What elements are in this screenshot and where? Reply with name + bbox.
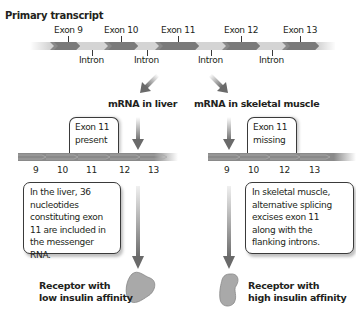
liver-long-arrow-icon (132, 186, 144, 270)
exon-label: Exon 10 (104, 25, 138, 35)
exon-tick (178, 36, 179, 42)
high-affinity-receptor-label: Receptor with high insulin affinity (248, 280, 346, 304)
liver-exon-number: 13 (148, 165, 159, 175)
exon-tick (121, 36, 122, 42)
muscle-exon-number: 9 (224, 165, 229, 175)
callout-line: flanking introns. (252, 236, 347, 249)
intron-label: Intron (79, 55, 104, 65)
callout-line: along with the (252, 224, 347, 237)
intron-label: Intron (198, 55, 223, 65)
arrow-to-muscle-icon (206, 73, 230, 97)
low-affinity-receptor-label: Receptor with low insulin affinity (39, 280, 133, 304)
liver-exon-number: 11 (86, 165, 97, 175)
exon11-missing-callout: Exon 11 missing (247, 117, 297, 153)
callout-line: Exon 11 (75, 121, 113, 134)
intron-label: Intron (259, 55, 284, 65)
intron-label: Intron (134, 55, 159, 65)
muscle-exon-number: 13 (309, 165, 320, 175)
muscle-exon-number: 10 (248, 165, 259, 175)
receptor-label-line: high insulin affinity (248, 292, 346, 304)
receptor-label-line: low insulin affinity (39, 292, 133, 304)
callout-line: nucleotides (30, 199, 114, 212)
receptor-label-line: Receptor with (39, 280, 133, 292)
exon-tick (300, 36, 301, 42)
callout-line: alternative splicing (252, 199, 347, 212)
muscle-mrna-title: mRNA in skeletal muscle (194, 98, 319, 109)
liver-explanation-callout: In the liver, 36 nucleotides constitutin… (23, 182, 121, 254)
receptor-label-line: Receptor with (248, 280, 346, 292)
liver-exon-number: 10 (57, 165, 68, 175)
muscle-down-arrow-icon (223, 117, 235, 151)
callout-line: In skeletal muscle, (252, 186, 347, 199)
liver-mrna-strand (18, 153, 178, 161)
liver-mrna-title: mRNA in liver (108, 98, 177, 109)
muscle-mrna-strand (208, 153, 356, 161)
liver-exon-number: 9 (33, 165, 38, 175)
page-title: Primary transcript (5, 10, 103, 21)
exon-tick (68, 36, 69, 42)
callout-line: excises exon 11 (252, 211, 347, 224)
muscle-exon-number: 12 (279, 165, 290, 175)
callout-line: Exon 11 (253, 121, 291, 134)
callout-line: constituting exon (30, 211, 114, 224)
muscle-explanation-callout: In skeletal muscle, alternative splicing… (245, 182, 354, 254)
exon-label: Exon 11 (161, 25, 195, 35)
callout-line: present (75, 134, 113, 147)
high-affinity-receptor-icon (218, 272, 242, 308)
arrow-to-liver-icon (138, 73, 162, 97)
callout-line: the messenger RNA. (30, 236, 114, 261)
exon-label: Exon 9 (54, 25, 83, 35)
liver-exon-number: 12 (119, 165, 130, 175)
exon-label: Exon 12 (224, 25, 258, 35)
muscle-long-arrow-icon (223, 186, 235, 270)
exon-label: Exon 13 (283, 25, 317, 35)
callout-line: In the liver, 36 (30, 186, 114, 199)
liver-down-arrow-icon (132, 117, 144, 151)
callout-line: missing (253, 134, 291, 147)
exon11-present-callout: Exon 11 present (69, 117, 119, 153)
exon-tick (241, 36, 242, 42)
callout-line: 11 are included in (30, 224, 114, 237)
